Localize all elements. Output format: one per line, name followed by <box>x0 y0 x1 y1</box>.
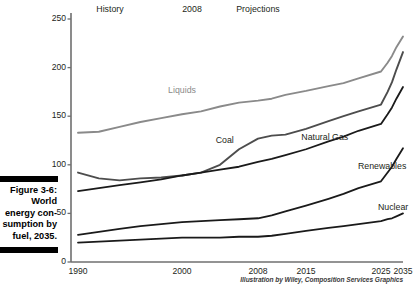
series-line-renewables <box>78 148 403 235</box>
annotation-projections: Projections <box>236 4 280 14</box>
series-label-renewables: Renewables <box>358 161 406 171</box>
y-axis-tick-150: 150 <box>40 110 66 120</box>
line-chart-svg <box>58 0 405 291</box>
series-line-coal <box>78 52 403 180</box>
series-label-coal: Coal <box>216 135 234 145</box>
series-line-liquids <box>78 37 403 133</box>
annotation-divider-year: 2008 <box>182 4 202 14</box>
series-label-nuclear: Nuclear <box>378 202 408 212</box>
y-axis-tick-50: 50 <box>40 207 66 217</box>
y-axis-tick-0: 0 <box>40 256 66 266</box>
y-axis-tick-100: 100 <box>40 159 66 169</box>
illustration-credit: Illustration by Wiley, Composition Servi… <box>240 276 403 283</box>
x-axis-tick-2000: 2000 <box>172 266 191 276</box>
x-axis-tick-2015: 2015 <box>296 266 315 276</box>
y-axis-tick-250: 250 <box>40 13 66 23</box>
series-label-liquids: Liquids <box>168 85 196 95</box>
y-axis-tick-200: 200 <box>40 62 66 72</box>
chart-plot-area: 050100150200250199020002008201520252035H… <box>58 0 405 291</box>
x-axis-tick-2025: 2025 <box>371 266 390 276</box>
x-axis-tick-2008: 2008 <box>248 266 267 276</box>
x-axis-tick-2035: 2035 <box>393 266 412 276</box>
x-axis-tick-1990: 1990 <box>68 266 87 276</box>
caption-rule-bottom <box>0 247 58 253</box>
annotation-history: History <box>96 4 123 14</box>
series-label-natural-gas: Natural Gas <box>301 132 348 142</box>
